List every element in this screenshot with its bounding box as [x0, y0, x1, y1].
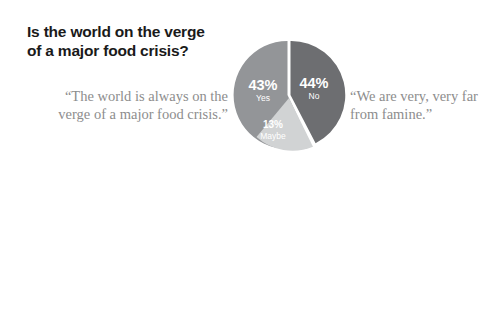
bar-chart-section: The main cause of rising food prices is:…	[0, 162, 503, 244]
pie-chart: 43% Yes 44% No 13% Maybe	[231, 38, 347, 152]
pie-chart-svg	[231, 38, 347, 152]
page-title-line-2: of a major food crisis?	[27, 41, 262, 60]
quote-right: “We are very, very far from famine.”	[350, 88, 500, 123]
infographic-page: Is the world on the verge of a major foo…	[0, 0, 503, 325]
quote-left: “The world is always on the verge of a m…	[38, 88, 228, 123]
page-title: Is the world on the verge of a major foo…	[27, 22, 262, 61]
consequences-section: As the middle class continues to balloon…	[0, 244, 503, 325]
page-title-line-1: Is the world on the verge	[27, 22, 262, 41]
